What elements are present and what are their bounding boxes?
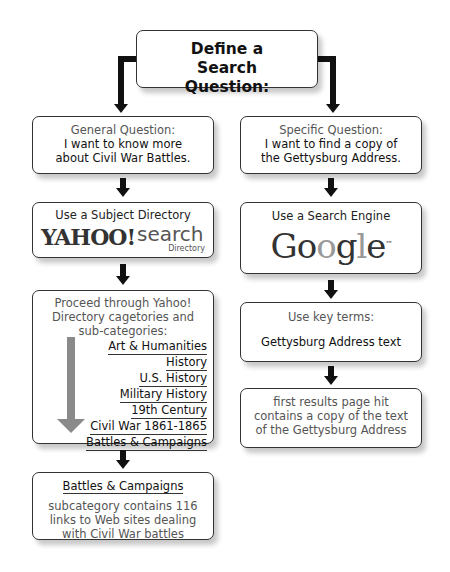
arrow-shaft xyxy=(120,178,126,188)
diagram-title: Define a Search Question: xyxy=(137,40,317,97)
key-terms-header: Use key terms: xyxy=(241,310,421,324)
key-terms-value: Gettysburg Address text xyxy=(241,335,421,349)
arrow-right-1 xyxy=(326,104,340,113)
search-engine-label: Use a Search Engine xyxy=(241,209,421,223)
arrow-right-3 xyxy=(324,290,338,299)
specific-question-header: Specific Question: xyxy=(241,123,421,137)
yahoo-wordmark: YAHOO! xyxy=(41,224,135,250)
category-item: U.S. History xyxy=(67,371,207,385)
arrow-shaft xyxy=(120,450,126,460)
connector-right-down xyxy=(330,56,336,104)
category-list: Art & Humanities History U.S. History Mi… xyxy=(67,337,207,449)
arrow-left-1 xyxy=(114,104,128,113)
search-engine-box: Use a Search Engine Google™ xyxy=(240,202,422,274)
general-question-box: General Question: I want to know more ab… xyxy=(32,116,214,174)
category-item: Civil War 1861-1865 xyxy=(67,419,207,433)
arrow-right-4 xyxy=(324,376,338,385)
category-item: Art & Humanities xyxy=(67,339,207,353)
battles-result-box: Battles & Campaigns subcategory contains… xyxy=(32,472,214,540)
connector-left-down xyxy=(118,56,124,104)
battles-result-title: Battles & Campaigns xyxy=(41,479,205,493)
specific-question-body: I want to find a copy of the Gettysburg … xyxy=(241,137,421,165)
search-result-body: first results page hit contains a copy o… xyxy=(249,395,413,437)
proceed-text: Proceed through Yahoo! Directory cagetor… xyxy=(41,296,205,338)
yahoo-search-word: search xyxy=(137,222,203,246)
arrow-shaft xyxy=(328,366,334,376)
arrow-left-3 xyxy=(116,276,130,285)
search-result-box: first results page hit contains a copy o… xyxy=(240,388,422,448)
arrow-right-2 xyxy=(324,188,338,197)
arrow-shaft xyxy=(328,178,334,188)
category-item: 19th Century xyxy=(67,403,207,417)
key-terms-box: Use key terms: Gettysburg Address text xyxy=(240,302,422,362)
yahoo-directory-word: Directory xyxy=(168,244,205,253)
subject-directory-box: Use a Subject Directory YAHOO! search Di… xyxy=(32,202,214,258)
directory-path-box: Proceed through Yahoo! Directory cagetor… xyxy=(32,290,214,444)
yahoo-logo: YAHOO! search Directory xyxy=(33,222,213,256)
google-logo: Google™ xyxy=(241,223,421,267)
specific-question-box: Specific Question: I want to find a copy… xyxy=(240,116,422,174)
category-item: Battles & Campaigns xyxy=(67,435,207,449)
general-question-header: General Question: xyxy=(33,123,213,137)
category-item: Military History xyxy=(67,387,207,401)
arrow-shaft xyxy=(120,264,126,276)
category-item: History xyxy=(67,355,207,369)
define-question-box: Define a Search Question: xyxy=(136,30,318,88)
arrow-shaft xyxy=(328,280,334,290)
arrow-left-2 xyxy=(116,188,130,197)
subject-directory-label: Use a Subject Directory xyxy=(33,208,213,222)
general-question-body: I want to know more about Civil War Batt… xyxy=(33,137,213,165)
arrow-left-4 xyxy=(116,460,130,469)
battles-result-body: subcategory contains 116 links to Web si… xyxy=(41,499,205,541)
